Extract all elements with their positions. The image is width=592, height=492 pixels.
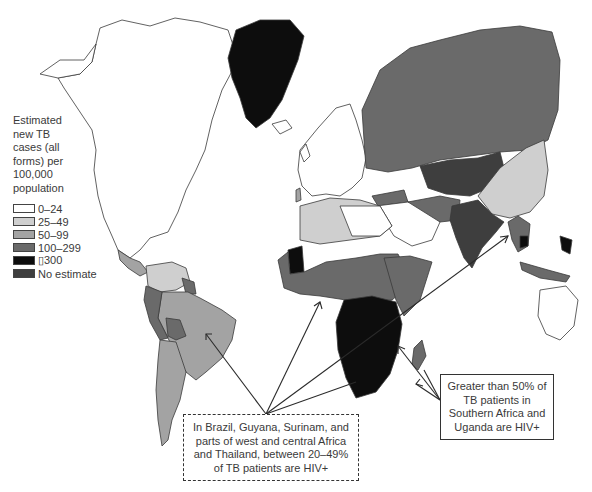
callout-hiv-20-49: In Brazil, Guyana, Surinam, and parts of… <box>183 414 359 481</box>
madagascar <box>412 340 426 370</box>
legend-swatch <box>13 217 35 226</box>
legend-label: ▯300 <box>38 254 62 267</box>
legend-item: 0–24 <box>13 202 123 215</box>
legend-item: ▯300 <box>13 254 123 267</box>
legend-title-line: Estimated <box>13 114 123 128</box>
legend-title-line: new TB <box>13 128 123 142</box>
legend-swatch <box>13 230 35 239</box>
legend-title-line: forms) per <box>13 155 123 169</box>
portugal <box>296 188 301 202</box>
mauritania <box>288 246 304 274</box>
legend-item: 25–49 <box>13 215 123 228</box>
south-america-north <box>146 262 190 292</box>
legend-title-line: cases (all <box>13 141 123 155</box>
legend: Estimated new TB cases (all forms) per 1… <box>13 114 123 280</box>
legend-label: 25–49 <box>38 216 69 228</box>
philippines <box>560 236 572 254</box>
legend-title-line: population <box>13 182 123 196</box>
legend-title-line: 100,000 <box>13 168 123 182</box>
legend-swatch <box>13 269 35 278</box>
cambodia <box>520 236 528 248</box>
australia <box>538 286 578 340</box>
legend-swatch <box>13 204 35 213</box>
greenland <box>228 20 304 128</box>
legend-label: 100–299 <box>38 242 81 254</box>
legend-label: 50–99 <box>38 229 69 241</box>
legend-swatch <box>13 256 35 265</box>
southern-africa <box>336 296 402 398</box>
indonesia <box>520 262 570 282</box>
legend-label: 0–24 <box>38 203 62 215</box>
legend-title: Estimated new TB cases (all forms) per 1… <box>13 114 123 195</box>
legend-item: 100–299 <box>13 241 123 254</box>
legend-label: No estimate <box>38 268 97 280</box>
legend-item: 50–99 <box>13 228 123 241</box>
legend-item: No estimate <box>13 267 123 280</box>
callout-hiv-over-50: Greater than 50% of TB patients in South… <box>440 374 554 440</box>
legend-swatch <box>13 243 35 252</box>
iceland <box>272 120 292 134</box>
